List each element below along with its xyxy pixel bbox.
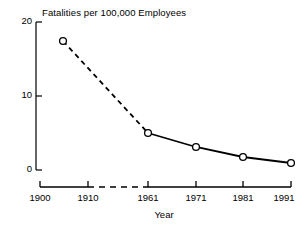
chart-figure: Fatalities per 100,000 Employees 20 10 0… <box>0 0 305 228</box>
x-axis <box>40 181 291 187</box>
data-series-line <box>63 41 291 163</box>
data-point-markers <box>60 38 295 167</box>
y-axis <box>36 22 42 170</box>
